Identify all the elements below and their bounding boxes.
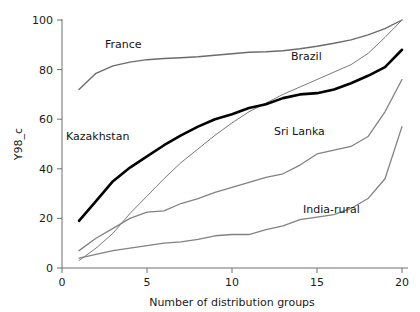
y-tick-label: 40 <box>39 163 53 176</box>
series-label-france: France <box>105 38 142 51</box>
x-tick-label: 20 <box>395 276 409 289</box>
series-label-brazil: Brazil <box>291 50 322 63</box>
series-label-sri-lanka: Sri Lanka <box>274 125 325 138</box>
line-chart: 02040608010005101520Number of distributi… <box>0 0 420 312</box>
series-line-sri-lanka <box>79 80 402 251</box>
y-tick-label: 100 <box>32 14 53 27</box>
x-tick-label: 15 <box>310 276 324 289</box>
series-label-india-rural: India-rural <box>303 203 360 216</box>
x-tick-label: 5 <box>144 276 151 289</box>
series-line-france <box>79 20 402 89</box>
x-tick-label: 10 <box>225 276 239 289</box>
y-tick-label: 80 <box>39 64 53 77</box>
series-label-kazakhstan: Kazakhstan <box>66 130 129 143</box>
x-tick-label: 0 <box>59 276 66 289</box>
x-axis-title: Number of distribution groups <box>149 296 315 309</box>
y-axis-title: Y98_c <box>12 128 25 161</box>
y-tick-label: 20 <box>39 212 53 225</box>
y-tick-label: 60 <box>39 113 53 126</box>
y-tick-label: 0 <box>46 262 53 275</box>
chart-container: 02040608010005101520Number of distributi… <box>0 0 420 312</box>
series-line-india-rural <box>79 127 402 258</box>
